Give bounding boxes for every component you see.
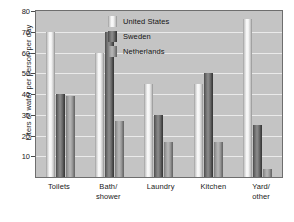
x-axis-tick-labels: ToiletsBath/ showerLaundryKitchenYard/ o… xyxy=(35,182,283,201)
y-tick-label-30: 30 xyxy=(14,110,30,119)
y-tick-label-10: 10 xyxy=(14,152,30,161)
bar-united-states-toilets xyxy=(46,32,55,177)
bar-united-states-yard-other xyxy=(243,19,252,177)
bar-chart-figure: Liters of water per person per day 10203… xyxy=(0,0,294,222)
chart-legend: United StatesSwedenNetherlands xyxy=(104,12,174,63)
legend-label: Netherlands xyxy=(123,47,165,56)
y-tick-label-60: 60 xyxy=(14,48,30,57)
x-tick-label-yard-other: Yard/ other xyxy=(252,182,270,201)
bar-united-states-bath-shower xyxy=(95,53,104,178)
bar-united-states-laundry xyxy=(144,84,153,177)
y-tick-label-40: 40 xyxy=(14,90,30,99)
y-tick-label-50: 50 xyxy=(14,69,30,78)
bar-sweden-laundry xyxy=(154,115,163,177)
bar-netherlands-yard-other xyxy=(263,169,272,177)
bar-group-kitchen xyxy=(194,11,223,177)
x-tick-label-kitchen: Kitchen xyxy=(200,182,226,201)
y-tick-label-80: 80 xyxy=(14,7,30,16)
bar-netherlands-toilets xyxy=(66,96,75,177)
legend-item-netherlands: Netherlands xyxy=(108,45,169,58)
legend-item-united-states: United States xyxy=(108,15,169,28)
bar-netherlands-bath-shower xyxy=(115,121,124,177)
legend-swatch-icon xyxy=(108,16,117,27)
x-tick-label-laundry: Laundry xyxy=(147,182,175,201)
x-tick-label-bath-shower: Bath/ shower xyxy=(96,182,121,201)
bar-group-yard-other xyxy=(243,11,272,177)
legend-swatch-icon xyxy=(108,31,117,42)
bar-united-states-kitchen xyxy=(194,84,203,177)
y-axis-tick-labels: 1020304050607080 xyxy=(14,10,30,178)
bar-netherlands-laundry xyxy=(164,142,173,177)
y-tick-label-20: 20 xyxy=(14,131,30,140)
bar-sweden-yard-other xyxy=(253,125,262,177)
y-tick-label-70: 70 xyxy=(14,27,30,36)
bar-sweden-toilets xyxy=(56,94,65,177)
bar-netherlands-kitchen xyxy=(214,142,223,177)
legend-label: Sweden xyxy=(123,32,151,41)
legend-label: United States xyxy=(123,17,169,26)
legend-item-sweden: Sweden xyxy=(108,30,169,43)
bar-sweden-kitchen xyxy=(204,73,213,177)
legend-swatch-icon xyxy=(108,46,117,57)
bar-group-toilets xyxy=(46,11,75,177)
x-tick-label-toilets: Toilets xyxy=(48,182,70,201)
